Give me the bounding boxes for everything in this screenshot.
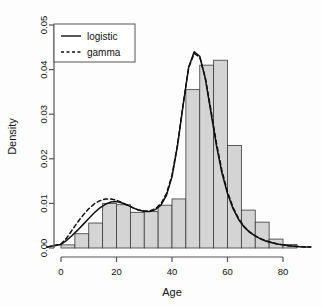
histogram-bar	[158, 205, 172, 248]
y-tick-label: 0.01	[38, 194, 49, 213]
histogram-bar	[200, 65, 214, 248]
y-tick-label: 0.03	[38, 105, 49, 124]
y-tick-label: 0.00	[38, 239, 49, 258]
histogram-bar	[61, 245, 75, 248]
histogram-bar	[144, 211, 158, 248]
y-axis-title: Density	[6, 118, 18, 155]
axes: 0204060800.000.010.020.030.040.05AgeDens…	[6, 16, 288, 298]
x-tick-label: 20	[111, 266, 122, 277]
histogram-bar	[255, 222, 269, 248]
histogram-bar	[172, 199, 186, 248]
x-tick-label: 80	[278, 266, 289, 277]
y-tick-label: 0.05	[38, 16, 49, 35]
histogram-bar	[241, 210, 255, 248]
histogram-bar	[117, 205, 131, 248]
legend: logisticgamma	[54, 24, 135, 62]
histogram-bar	[103, 203, 117, 248]
density-plot-figure: 0204060800.000.010.020.030.040.05AgeDens…	[0, 0, 321, 307]
legend-label-logistic: logistic	[87, 31, 118, 42]
histogram-bars	[61, 60, 297, 248]
y-tick-label: 0.02	[38, 150, 49, 169]
histogram-bar	[214, 60, 228, 248]
legend-label-gamma: gamma	[87, 47, 121, 58]
chart-canvas: 0204060800.000.010.020.030.040.05AgeDens…	[0, 0, 321, 307]
x-axis-title: Age	[162, 286, 182, 298]
x-tick-label: 60	[222, 266, 233, 277]
x-tick-label: 40	[167, 266, 178, 277]
histogram-bar	[130, 212, 144, 248]
histogram-bar	[75, 234, 89, 248]
x-tick-label: 0	[58, 266, 63, 277]
y-tick-label: 0.04	[38, 60, 49, 79]
histogram-bar	[186, 90, 200, 248]
histogram-bar	[89, 223, 103, 248]
